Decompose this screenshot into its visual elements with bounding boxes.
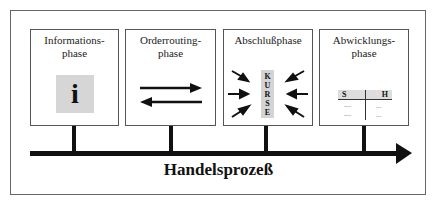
phase-box-orderrouting: Orderrouting- phase bbox=[125, 29, 216, 126]
title-line1: Orderrouting- bbox=[126, 34, 215, 47]
phase-box-information: Informations- phase i bbox=[30, 29, 119, 126]
t-account-icon: S H --- --- ... ... bbox=[338, 90, 392, 120]
title-line1: Abschlußphase bbox=[224, 34, 312, 47]
entry: ... bbox=[376, 111, 381, 119]
bidirectional-arrows-icon bbox=[138, 80, 204, 110]
info-glyph: i bbox=[56, 75, 94, 113]
converging-arrows-icon bbox=[224, 65, 312, 125]
info-icon: i bbox=[56, 75, 94, 113]
phase-box-abwicklung: Abwicklungs- phase S H --- --- ... ... bbox=[319, 29, 409, 126]
stem-abwicklung bbox=[362, 126, 366, 154]
entry: --- bbox=[344, 102, 351, 110]
stem-abschluss bbox=[264, 126, 268, 154]
phase-title: Informations- phase bbox=[31, 34, 118, 60]
title-line2: phase bbox=[31, 47, 118, 60]
credit-label: H bbox=[382, 90, 388, 99]
process-axis bbox=[30, 151, 398, 156]
stem-orderrouting bbox=[169, 126, 173, 154]
entry: ... bbox=[376, 102, 381, 110]
t-account-divider bbox=[365, 90, 366, 120]
title-line1: Informations- bbox=[31, 34, 118, 47]
phase-title: Abwicklungs- phase bbox=[320, 34, 408, 60]
title-line1: Abwicklungs- bbox=[320, 34, 408, 47]
phase-box-abschluss: Abschlußphase K U R S E bbox=[223, 29, 313, 126]
entry: --- bbox=[344, 111, 351, 119]
phase-title: Abschlußphase bbox=[224, 34, 312, 47]
axis-label: Handelsprozeß bbox=[0, 160, 437, 180]
title-line2: phase bbox=[320, 47, 408, 60]
stem-information bbox=[72, 126, 76, 154]
debit-label: S bbox=[342, 90, 346, 99]
phase-title: Orderrouting- phase bbox=[126, 34, 215, 60]
title-line2: phase bbox=[126, 47, 215, 60]
